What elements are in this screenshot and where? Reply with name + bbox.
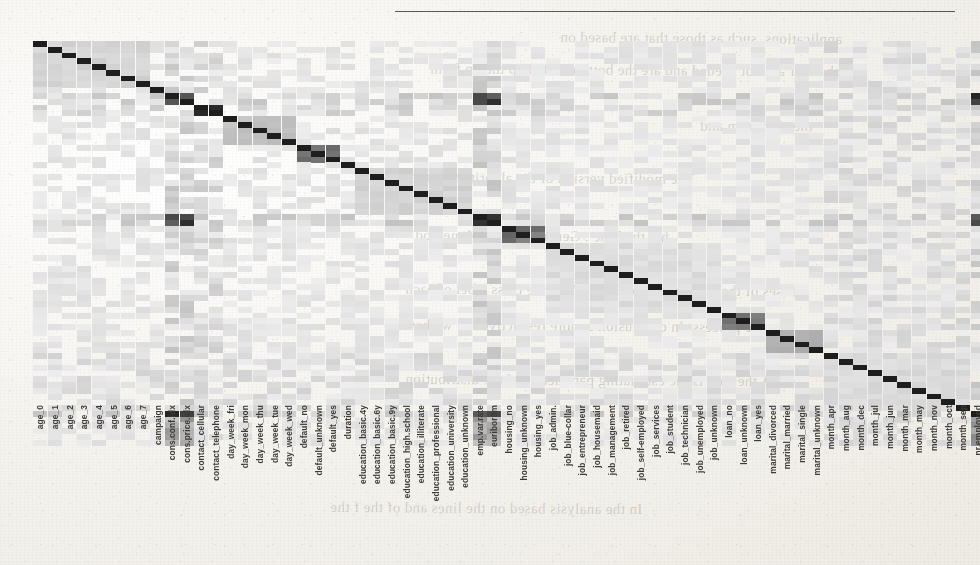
heatmap-cell: [165, 307, 179, 313]
heatmap-cell: [150, 151, 164, 157]
heatmap-cell: [267, 307, 281, 313]
x-tick-label: contact_telephone: [212, 405, 220, 481]
heatmap-cell: [766, 76, 780, 82]
heatmap-cell: [370, 249, 384, 255]
x-tick-label: marital_divorced: [769, 405, 777, 474]
heatmap-cell: [927, 307, 941, 313]
heatmap-cell: [209, 324, 223, 330]
heatmap-cell: [209, 243, 223, 249]
heatmap-cell: [429, 128, 443, 134]
heatmap-cell: [824, 122, 838, 128]
heatmap-cell: [33, 278, 47, 284]
heatmap-cell: [209, 128, 223, 134]
heatmap-cell: [809, 347, 823, 353]
heatmap-cell: [385, 232, 399, 238]
heatmap-cell: [971, 394, 980, 400]
heatmap-cell: [473, 324, 487, 330]
heatmap-cell: [77, 122, 91, 128]
heatmap-cell: [121, 365, 135, 371]
heatmap-cell: [853, 272, 867, 278]
heatmap-cell: [809, 81, 823, 87]
heatmap-cell: [92, 145, 106, 151]
heatmap-cell: [121, 133, 135, 139]
heatmap-cell: [839, 243, 853, 249]
heatmap-cell: [282, 41, 296, 47]
heatmap-cell: [575, 87, 589, 93]
heatmap-cell: [634, 209, 648, 215]
x-tick-label: job_management: [608, 405, 616, 475]
heatmap-cell: [590, 220, 604, 226]
heatmap-cell: [575, 151, 589, 157]
heatmap-cell: [634, 330, 648, 336]
heatmap-cell: [136, 99, 150, 105]
heatmap-cell: [619, 318, 633, 324]
heatmap-cell: [824, 168, 838, 174]
heatmap-cell: [560, 197, 574, 203]
heatmap-cell: [722, 81, 736, 87]
heatmap-cell: [736, 336, 750, 342]
heatmap-cell: [883, 342, 897, 348]
heatmap-cell: [311, 336, 325, 342]
heatmap-cell: [883, 70, 897, 76]
heatmap-cell: [253, 336, 267, 342]
heatmap-cell: [663, 76, 677, 82]
heatmap-cell: [282, 70, 296, 76]
heatmap-cell: [736, 64, 750, 70]
heatmap-cell: [121, 81, 135, 87]
heatmap-cell: [853, 53, 867, 59]
heatmap-cell: [531, 174, 545, 180]
heatmap-cell: [795, 122, 809, 128]
heatmap-cell: [341, 81, 355, 87]
heatmap-cell: [648, 64, 662, 70]
heatmap-cell: [648, 307, 662, 313]
heatmap-cell: [663, 365, 677, 371]
heatmap-cell: [736, 139, 750, 145]
heatmap-cell: [355, 359, 369, 365]
heatmap-cell: [370, 87, 384, 93]
heatmap-cell: [341, 145, 355, 151]
heatmap-cell: [77, 313, 91, 319]
heatmap-cell: [443, 295, 457, 301]
heatmap-cell: [809, 197, 823, 203]
heatmap-cell: [443, 226, 457, 232]
heatmap-cell: [253, 290, 267, 296]
heatmap-cell: [399, 209, 413, 215]
heatmap-cell: [766, 197, 780, 203]
x-tick-label: day_week_fri: [227, 405, 235, 459]
heatmap-cell: [267, 93, 281, 99]
heatmap-cell: [663, 162, 677, 168]
heatmap-cell: [912, 70, 926, 76]
heatmap-cell: [194, 157, 208, 163]
x-tick-label: education_university: [447, 405, 455, 491]
heatmap-cell: [736, 284, 750, 290]
heatmap-cell: [692, 313, 706, 319]
heatmap-cell: [238, 255, 252, 261]
heatmap-cell: [370, 47, 384, 53]
heatmap-cell: [824, 226, 838, 232]
heatmap-cell: [809, 272, 823, 278]
heatmap-cell: [824, 105, 838, 111]
heatmap-cell: [385, 342, 399, 348]
heatmap-cell: [912, 272, 926, 278]
heatmap-cell: [927, 145, 941, 151]
heatmap-cell: [180, 139, 194, 145]
heatmap-cell: [531, 128, 545, 134]
heatmap-cell: [795, 145, 809, 151]
heatmap-cell: [780, 203, 794, 209]
heatmap-cell: [238, 238, 252, 244]
heatmap-cell: [33, 162, 47, 168]
heatmap-cell: [238, 105, 252, 111]
heatmap-cell: [33, 353, 47, 359]
heatmap-cell: [692, 76, 706, 82]
heatmap-cell: [590, 162, 604, 168]
heatmap-cell: [590, 324, 604, 330]
heatmap-cell: [692, 226, 706, 232]
x-tick-label: loan_no: [725, 405, 733, 438]
heatmap-cell: [223, 370, 237, 376]
heatmap-cell: [560, 70, 574, 76]
heatmap-cell: [106, 330, 120, 336]
heatmap-cell: [824, 278, 838, 284]
heatmap-cell: [634, 394, 648, 400]
heatmap-cell: [458, 353, 472, 359]
heatmap-cell: [150, 342, 164, 348]
